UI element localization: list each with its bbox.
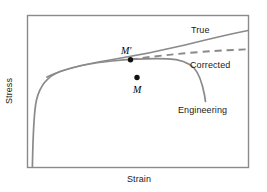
point-marker-m: [134, 75, 139, 80]
x-axis-label: Strain: [113, 174, 165, 184]
corrected-curve-label: Corrected: [190, 60, 230, 70]
point-label-m: M: [133, 84, 141, 95]
point-marker-m-prime: [128, 57, 133, 62]
true-curve-label: True: [191, 25, 210, 35]
plot-canvas: [0, 0, 267, 192]
stress-strain-figure: Stress Strain True Corrected Engineering…: [0, 0, 267, 192]
engineering-curve-label: Engineering: [178, 105, 227, 115]
point-label-m-prime: M′: [121, 45, 132, 56]
y-axis-label: Stress: [4, 69, 14, 113]
